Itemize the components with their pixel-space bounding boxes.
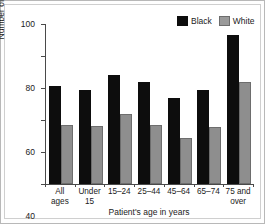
y-tick: 100 <box>41 24 45 25</box>
y-tick-label: 80 <box>26 84 35 93</box>
bar-group <box>168 24 192 184</box>
bar-white <box>180 138 192 184</box>
bar-white <box>150 125 162 184</box>
bar-group <box>79 24 103 184</box>
bar-white <box>120 114 132 184</box>
y-tick: 20 <box>41 152 45 153</box>
x-axis-title: Patient's age in years <box>45 208 253 217</box>
y-tick-label: 40 <box>26 212 35 221</box>
bar-group <box>49 24 73 184</box>
bar-white <box>61 125 73 184</box>
y-tick-label: 60 <box>26 148 35 157</box>
y-tick: 40 <box>41 120 45 121</box>
bar-black <box>168 98 180 184</box>
bar-white <box>91 126 103 184</box>
bar-group <box>138 24 162 184</box>
x-category-label: 75 and over <box>219 187 257 207</box>
bar-black <box>227 35 239 184</box>
y-tick-label: 100 <box>21 20 35 29</box>
bar-group <box>227 24 251 184</box>
chart-figure: Black White Number of visits per 100 per… <box>0 0 265 224</box>
y-axis-line <box>45 24 46 184</box>
bar-black <box>108 75 120 184</box>
y-tick: 60 <box>41 88 45 89</box>
bar-group <box>197 24 221 184</box>
bar-black <box>197 90 209 184</box>
y-tick: 80 <box>41 56 45 57</box>
y-axis-title: Number of visits per 100 persons <box>0 0 6 47</box>
bar-black <box>49 86 61 184</box>
bar-black <box>79 90 91 184</box>
bar-white <box>239 82 251 184</box>
bar-black <box>138 82 150 184</box>
plot-area: 020406080100 <box>45 24 253 184</box>
bar-group <box>108 24 132 184</box>
bar-white <box>209 127 221 184</box>
